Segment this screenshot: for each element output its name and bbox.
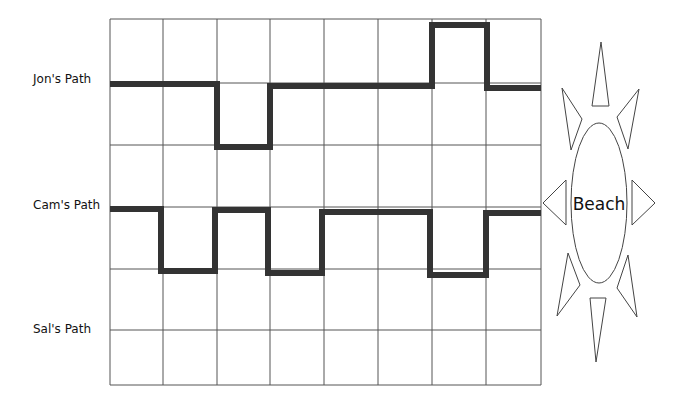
sun-ray-right bbox=[632, 180, 655, 225]
grid bbox=[110, 19, 541, 385]
path-line-0 bbox=[110, 25, 541, 147]
path-label-cam: Cam's Path bbox=[33, 198, 100, 212]
sun-ray-left bbox=[543, 180, 566, 225]
sun-ray-top-left bbox=[562, 88, 582, 150]
sun-ray-bottom-right bbox=[617, 255, 637, 317]
path-label-sal: Sal's Path bbox=[33, 322, 91, 336]
sun-ray-bottom bbox=[590, 298, 606, 362]
paths bbox=[110, 25, 541, 275]
destination-label: Beach bbox=[573, 194, 626, 214]
sun-ray-top bbox=[592, 42, 609, 106]
path-line-1 bbox=[110, 209, 541, 275]
path-diagram: Beach bbox=[0, 0, 688, 411]
sun-ray-bottom-left bbox=[557, 253, 580, 316]
sun-ray-top-right bbox=[617, 89, 639, 149]
path-label-jon: Jon's Path bbox=[33, 72, 91, 86]
